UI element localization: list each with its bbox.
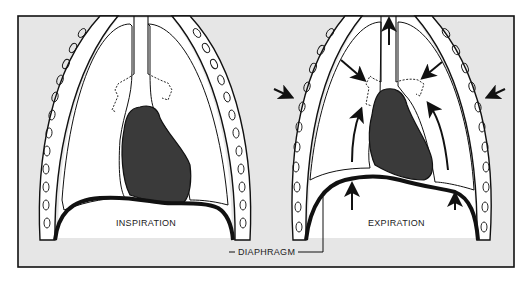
diaphragm-label: DIAPHRAGM [238, 247, 295, 257]
inspiration-label: INSPIRATION [116, 218, 176, 228]
expiration-label: EXPIRATION [368, 218, 425, 228]
respiration-diagram: INSPIRATION [0, 0, 528, 282]
